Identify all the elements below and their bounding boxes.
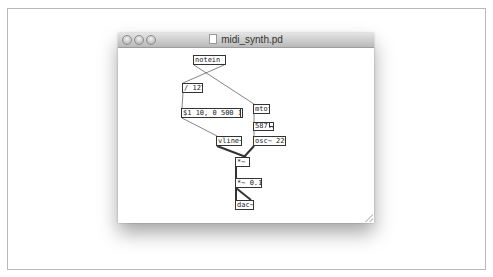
wire-osc-mul	[244, 146, 254, 157]
wire-mul01-dacR	[236, 188, 251, 200]
wire-notein-mtof	[194, 65, 254, 104]
wire-msg-vline	[182, 118, 217, 136]
object-notein[interactable]: notein 1	[193, 55, 226, 65]
object-multiply[interactable]: *~	[235, 157, 250, 167]
number-box-notch	[269, 123, 273, 127]
object-osc[interactable]: osc~ 220	[253, 136, 286, 146]
object-mtof[interactable]: mtof	[253, 104, 270, 114]
document-icon	[209, 34, 217, 44]
pd-patch-window: midi_synth.pd	[118, 33, 374, 223]
window-title: midi_synth.pd	[118, 34, 374, 45]
message-envelope[interactable]: $1 10, 0 500 10	[181, 108, 243, 118]
wire-div-msg	[182, 93, 183, 108]
object-divide-127[interactable]: / 127	[182, 83, 203, 93]
object-multiply-gain[interactable]: *~ 0.1	[235, 178, 262, 188]
wire-vline-mul	[217, 146, 246, 157]
window-titlebar[interactable]: midi_synth.pd	[118, 33, 374, 48]
patch-connections	[118, 48, 374, 223]
resize-grip[interactable]	[365, 214, 373, 222]
window-title-text: midi_synth.pd	[221, 34, 283, 45]
number-box-frequency[interactable]: 587.3	[253, 122, 274, 131]
patch-canvas[interactable]: notein 1 / 127 $1 10, 0 500 10 mtof 587.…	[118, 48, 374, 223]
object-vline[interactable]: vline~	[216, 136, 242, 146]
object-dac[interactable]: dac~	[235, 200, 254, 210]
